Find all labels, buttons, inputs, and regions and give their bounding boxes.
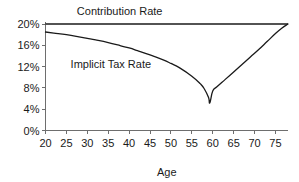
y-tick-label: 16% [17,39,39,51]
y-tick-label: 4% [24,103,40,115]
x-tick-label: 45 [144,137,156,149]
x-tick-label: 75 [269,137,281,149]
x-tick-label: 20 [39,137,51,149]
y-tick-label: 20% [17,18,39,30]
y-tick-label: 0% [24,125,40,137]
x-tick-label: 30 [81,137,93,149]
x-tick-label: 60 [207,137,219,149]
x-tick-label: 70 [248,137,260,149]
series-annotation-label: Contribution Rate [77,5,163,17]
x-axis-title: Age [157,166,177,178]
x-tick-label: 35 [102,137,114,149]
y-tick-label: 12% [17,61,39,73]
implicit-tax-rate-chart: 0%4%8%12%16%20% 202530354045505560657075… [0,0,299,182]
x-tick-label: 40 [123,137,135,149]
series-annotation-label: Implicit Tax Rate [71,58,152,70]
y-tick-label: 8% [24,82,40,94]
x-tick-label: 55 [186,137,198,149]
x-tick-label: 25 [60,137,72,149]
x-tick-label: 50 [165,137,177,149]
chart-container: 0%4%8%12%16%20% 202530354045505560657075… [0,0,299,182]
x-tick-label: 65 [228,137,240,149]
plot-background [0,0,299,182]
